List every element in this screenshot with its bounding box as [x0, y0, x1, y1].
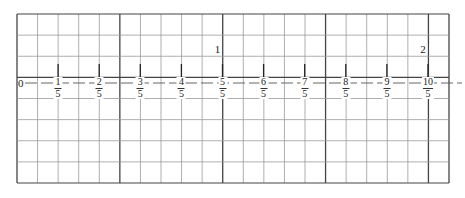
numerator: 10	[423, 77, 433, 87]
denominator: 5	[179, 89, 184, 99]
denominator: 5	[343, 89, 348, 99]
numerator: 5	[220, 77, 225, 87]
denominator: 5	[56, 89, 61, 99]
fraction-label: 75	[300, 77, 309, 99]
numerator: 8	[343, 77, 348, 87]
numerator: 2	[97, 77, 102, 87]
fraction-label: 25	[95, 77, 104, 99]
whole-number-label: 2	[419, 44, 427, 55]
fraction-label: 15	[54, 77, 63, 99]
fraction-label: 35	[136, 77, 145, 99]
fraction-label: 105	[422, 77, 434, 99]
fraction-label: 95	[382, 77, 391, 99]
numerator: 1	[56, 77, 61, 87]
number-line-worksheet: 0 152535455565758595105 12	[0, 0, 465, 198]
numerator: 6	[261, 77, 266, 87]
denominator: 5	[426, 89, 431, 99]
numerator: 9	[384, 77, 389, 87]
numerator: 3	[138, 77, 143, 87]
fraction-label: 45	[177, 77, 186, 99]
denominator: 5	[138, 89, 143, 99]
fraction-label: 85	[341, 77, 350, 99]
fraction-label: 65	[259, 77, 268, 99]
numerator: 7	[302, 77, 307, 87]
denominator: 5	[261, 89, 266, 99]
numerator: 4	[179, 77, 184, 87]
denominator: 5	[220, 89, 225, 99]
origin-label-zero: 0	[18, 78, 25, 89]
grid-paper	[0, 0, 465, 198]
denominator: 5	[97, 89, 102, 99]
whole-number-label: 1	[214, 44, 222, 55]
denominator: 5	[384, 89, 389, 99]
denominator: 5	[302, 89, 307, 99]
fraction-label: 55	[218, 77, 227, 99]
